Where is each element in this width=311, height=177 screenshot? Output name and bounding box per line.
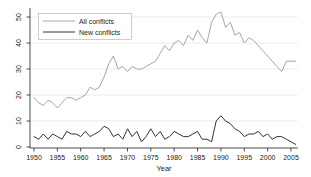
y-tick-label: 30 [15,65,22,73]
legend-label-all-conflicts: All conflicts [79,18,115,25]
x-axis-title: Year [156,164,172,173]
x-tick-label: 2000 [260,154,276,161]
x-tick-label: 1960 [73,154,89,161]
y-axis-ticks: 01020304050 [15,13,30,149]
y-tick-label: 0 [15,145,22,149]
x-tick-label: 1990 [213,154,229,161]
y-tick-label: 50 [15,13,22,21]
x-tick-label: 1970 [120,154,136,161]
x-tick-label: 1975 [143,154,159,161]
x-axis-ticks: 1950195519601965197019751980198519901995… [26,148,299,161]
legend-label-new-conflicts: New conflicts [79,29,121,36]
y-tick-label: 10 [15,117,22,125]
chart-canvas: 1950195519601965197019751980198519901995… [0,0,311,177]
y-tick-label: 40 [15,39,22,47]
x-tick-label: 1995 [236,154,252,161]
x-tick-label: 2005 [283,154,299,161]
x-tick-label: 1950 [26,154,42,161]
x-tick-label: 1985 [190,154,206,161]
y-tick-label: 20 [15,91,22,99]
x-tick-label: 1955 [50,154,66,161]
x-tick-label: 1965 [96,154,112,161]
legend: All conflicts New conflicts [39,14,132,40]
x-tick-label: 1980 [166,154,182,161]
series-line-new-conflicts [34,116,296,145]
conflicts-line-chart: 1950195519601965197019751980198519901995… [0,0,311,177]
